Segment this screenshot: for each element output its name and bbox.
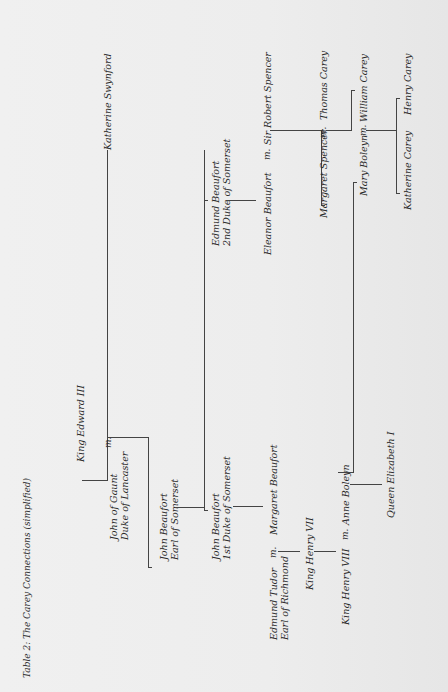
person-john-beaufort-earl: John Beaufort Earl of Somerset (158, 479, 180, 560)
line-gaunt-to-earl (108, 437, 148, 438)
person-katherine-carey: Katherine Carey (402, 131, 413, 210)
line-henry-viii-to-elizabeth (350, 484, 382, 485)
line-boleyn-sisters-bracket (353, 182, 354, 472)
person-thomas-carey: Thomas Carey (318, 51, 329, 120)
line-carey-to-children (366, 130, 396, 131)
line-carey-to-william (326, 130, 352, 131)
tick-katherine-carey (396, 193, 400, 194)
person-elizabeth-i: Queen Elizabeth I (385, 432, 396, 518)
marriage-marker-spencer: m. (262, 149, 272, 160)
book-page: Table 2: The Carey Connections (simplifi… (0, 0, 448, 692)
marriage-marker-henry-viii: m. (340, 529, 350, 540)
tick-edmund (204, 200, 208, 201)
tick-henry-carey (396, 98, 400, 99)
line-edmund-to-eleanor (226, 200, 256, 201)
line-duke-to-margaret (233, 506, 263, 507)
person-robert-spencer: Sir Robert Spencer (262, 52, 273, 145)
tick-earl (148, 567, 152, 568)
tick-mary-boleyn (353, 182, 357, 183)
person-john-beaufort-duke: John Beaufort 1st Duke of Somerset (210, 456, 232, 560)
person-william-carey: William Carey (358, 54, 369, 122)
line-up-to-william (351, 90, 352, 131)
person-mary-boleyn: Mary Boleyn (358, 135, 369, 196)
marriage-marker-gaunt: m. (103, 437, 113, 448)
person-john-of-gaunt: John of Gaunt Duke of Lancaster (108, 452, 130, 540)
line-earl-to-children (175, 507, 205, 508)
marriage-marker-carey: m. (318, 127, 328, 138)
table-title: Table 2: The Carey Connections (simplifi… (22, 478, 32, 678)
person-katherine-swynford: Katherine Swynford (102, 53, 113, 150)
line-henry-vii-to-viii (314, 551, 336, 552)
line-edward-to-gaunt (82, 480, 108, 481)
person-edmund-tudor: Edmund Tudor Earl of Richmond (268, 556, 290, 640)
tick-john-duke (204, 510, 208, 511)
line-down-to-earl (148, 437, 149, 567)
line-spencer-to-margaret (270, 130, 322, 131)
tick-william (351, 90, 355, 91)
person-henry-vii: King Henry VII (304, 517, 315, 590)
person-henry-carey: Henry Carey (402, 54, 413, 115)
line-earl-children-bracket (204, 150, 205, 510)
person-henry-viii: King Henry VIII (340, 549, 351, 625)
line-gaunt-swynford-marriage (107, 150, 108, 480)
person-margaret-spencer: Margaret Spencer (318, 130, 329, 219)
tick-anne-boleyn (338, 472, 354, 473)
line-carey-children-bracket (396, 98, 397, 193)
person-edmund-beaufort: Edmund Beaufort 2nd Duke of Somerset (210, 139, 232, 246)
person-anne-boleyn: Anne Boleyn (340, 464, 351, 525)
line-tudor-to-henry-vii (278, 551, 300, 552)
marriage-marker-tudor: m. (268, 547, 278, 558)
person-margaret-beaufort: Margaret Beaufort (268, 444, 279, 535)
person-edward-iii: King Edward III (75, 385, 86, 462)
person-eleanor-beaufort: Eleanor Beaufort (262, 172, 273, 255)
